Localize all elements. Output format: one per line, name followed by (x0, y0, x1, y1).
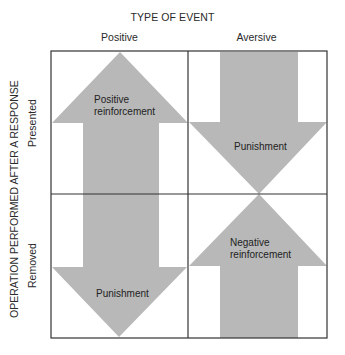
label-line: Negative (230, 237, 291, 249)
cell-label-punishment-removed: Punishment (96, 288, 149, 300)
cell-label-punishment-presented: Punishment (234, 141, 287, 153)
label-line: reinforcement (230, 249, 291, 261)
down-arrow-icon (189, 52, 327, 194)
label-line: Positive (94, 94, 155, 106)
label-line: Punishment (96, 288, 149, 300)
cell-label-positive-reinforcement: Positive reinforcement (94, 94, 155, 118)
contingency-diagram (0, 0, 345, 355)
up-arrow-icon (189, 194, 327, 338)
cell-label-negative-reinforcement: Negative reinforcement (230, 237, 291, 261)
label-line: reinforcement (94, 106, 155, 118)
up-arrow-icon (52, 52, 188, 194)
label-line: Punishment (234, 141, 287, 153)
down-arrow-icon (52, 194, 187, 337)
